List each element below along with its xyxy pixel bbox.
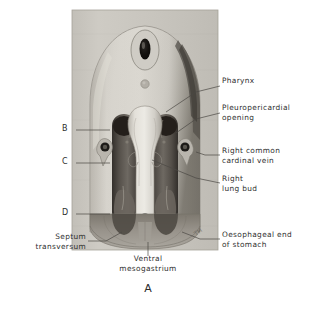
left-canal-marking [125,140,128,143]
right-canal-marking [162,140,165,143]
label-septum-transversum: Septum transversum [6,232,86,251]
anatomical-figure-plate: TH B C D Pharynx Pleuropericardial openi… [0,0,309,312]
label-right-common-cardinal-vein: Right common cardinal vein [222,146,280,165]
label-pharynx: Pharynx [222,76,255,86]
marker-d: D [62,208,69,217]
label-right-lung-bud: Right lung bud [222,174,257,193]
figure-letter: A [118,282,178,295]
left-cardinal-vein-core [103,145,107,149]
small-duct-highlight [142,81,145,84]
aperture-highlight [142,42,145,49]
marker-c: C [62,157,68,166]
marker-b: B [62,124,68,133]
right-cardinal-vein-core [183,145,187,149]
label-ventral-mesogastrium: Ventral mesogastrium [98,254,198,273]
pleuropericardial-opening-aperture [140,39,151,60]
label-pleuropericardial-opening: Pleuropericardial opening [222,103,290,122]
label-oesophageal-end-of-stomach: Oesophageal end of stomach [222,230,292,249]
